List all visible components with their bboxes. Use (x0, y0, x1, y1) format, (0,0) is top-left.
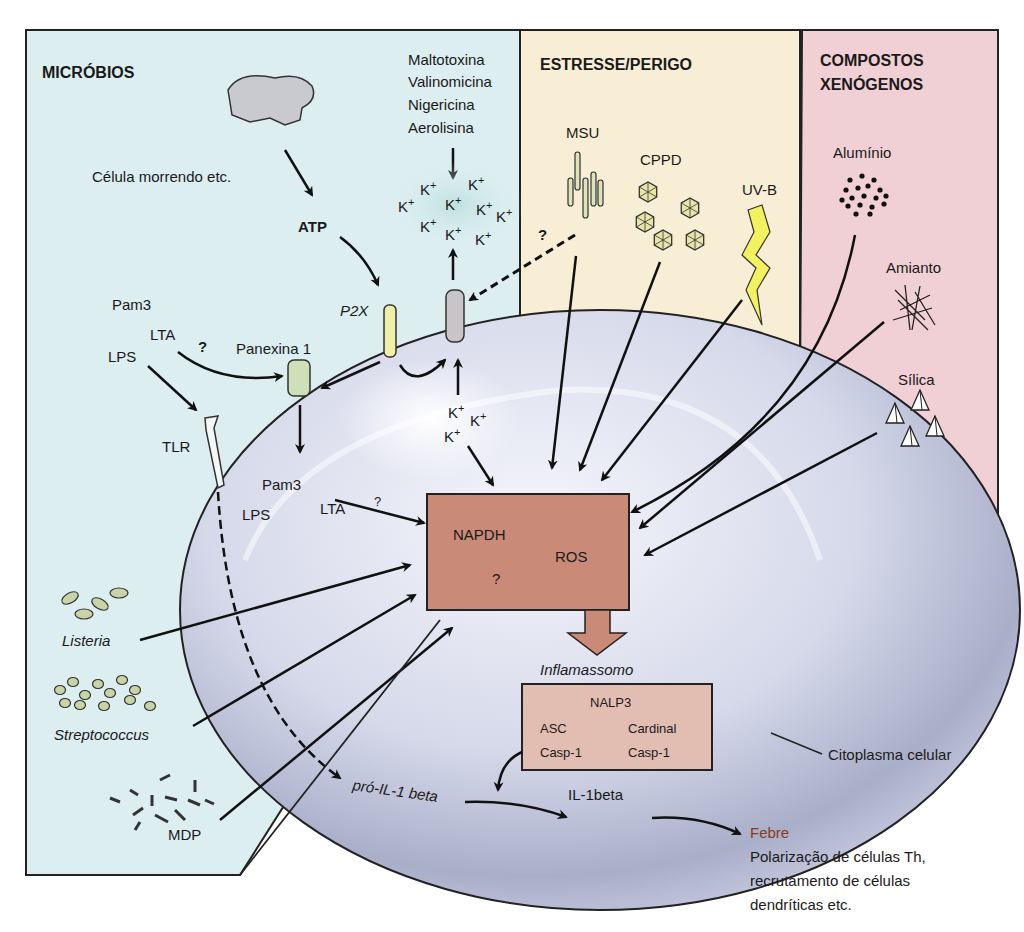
casp1-left-label: Casp-1 (540, 745, 582, 760)
aluminium-dot (847, 177, 852, 182)
aluminium-dot (867, 211, 872, 216)
aluminium-dot (871, 177, 876, 182)
lps-label: LPS (108, 348, 136, 365)
streptococcus-cell (55, 686, 66, 695)
streptococcus-cell (105, 689, 116, 698)
cardinal-label: Cardinal (628, 721, 677, 736)
aluminium-dot (881, 201, 886, 206)
pam3-inner-label: Pam3 (262, 476, 301, 493)
msu-label: MSU (566, 124, 599, 141)
streptococcus-cell (130, 686, 141, 695)
question-mark: ? (374, 494, 381, 509)
casp1-right-label: Casp-1 (628, 745, 670, 760)
aluminium-dot (849, 195, 854, 200)
toxin-label: Maltotoxina (408, 51, 485, 68)
streptococcus-cell (125, 696, 136, 705)
silica-label: Sílica (898, 371, 935, 388)
streptococcus-cell (145, 702, 156, 711)
aluminium-dot (839, 197, 844, 202)
inflammasome-label: Inflamassomo (540, 661, 633, 678)
aluminium-dot (877, 187, 882, 192)
fever-label: Febre (750, 824, 789, 841)
k-channel-icon (446, 290, 464, 342)
streptococcus-cell (75, 701, 86, 710)
pannexin-label: Panexina 1 (236, 340, 311, 357)
streptococcus-label: Streptococcus (54, 726, 150, 743)
aluminium-dot (843, 187, 848, 192)
asc-label: ASC (540, 721, 567, 736)
il1beta-label: IL-1beta (568, 786, 624, 803)
streptococcus-cell (99, 702, 110, 711)
pam3-label: Pam3 (112, 296, 151, 313)
streptococcus-cell (68, 678, 79, 687)
toxin-label: Valinomicina (408, 73, 493, 90)
tlr-label: TLR (162, 438, 191, 455)
panel-title-xeno-1: COMPOSTOS (820, 52, 924, 69)
streptococcus-cell (93, 680, 104, 689)
inflammasome-diagram: MICRÓBIOS ESTRESSE/PERIGO COMPOSTOS XENÓ… (0, 0, 1024, 932)
aluminium-dot (857, 202, 862, 207)
lps-inner-label: LPS (242, 506, 270, 523)
dying-cell-icon (228, 76, 314, 125)
asbestos-label: Amianto (886, 259, 941, 276)
lta-label: LTA (150, 326, 175, 343)
aluminium-dot (873, 195, 878, 200)
napdh-ros-box (427, 494, 629, 610)
p2x-channel-icon (384, 305, 396, 357)
dying-cell-label: Célula morrendo etc. (92, 168, 231, 185)
aluminium-dot (869, 204, 874, 209)
toxin-label: Nigericina (408, 96, 475, 113)
effects-line: Polarização de células Th, (750, 848, 926, 865)
aluminium-label: Alumínio (833, 144, 891, 161)
aluminium-dot (861, 193, 866, 198)
streptococcus-cell (80, 691, 91, 700)
streptococcus-cell (117, 676, 128, 685)
aluminium-dot (855, 185, 860, 190)
aluminium-dot (883, 193, 888, 198)
panel-title-stress: ESTRESSE/PERIGO (540, 56, 692, 73)
aluminium-dot (845, 203, 850, 208)
aluminium-dot (865, 183, 870, 188)
aluminium-dot (853, 211, 858, 216)
cytoplasm-label: Citoplasma celular (828, 746, 951, 763)
uvb-label: UV-B (742, 181, 777, 198)
toxin-label: Aerolisina (408, 119, 475, 136)
napdh-label: NAPDH (453, 526, 506, 543)
panel-title-microbes: MICRÓBIOS (42, 63, 135, 81)
question-mark: ? (492, 570, 500, 587)
effects-line: recrutamento de células (750, 872, 910, 889)
aluminium-dot (859, 173, 864, 178)
streptococcus-cell (60, 699, 71, 708)
question-mark: ? (198, 338, 207, 355)
listeria-label: Listeria (62, 632, 110, 649)
effects-line: dendríticas etc. (750, 896, 852, 913)
pannexin-channel-icon (288, 360, 310, 396)
panel-title-xeno-2: XENÓGENOS (820, 75, 923, 93)
nalp3-label: NALP3 (590, 695, 631, 710)
mdp-label: MDP (168, 826, 201, 843)
question-mark: ? (538, 226, 547, 243)
atp-label: ATP (298, 218, 327, 235)
p2x-label: P2X (340, 302, 369, 319)
cppd-label: CPPD (640, 151, 682, 168)
ros-label: ROS (555, 548, 588, 565)
